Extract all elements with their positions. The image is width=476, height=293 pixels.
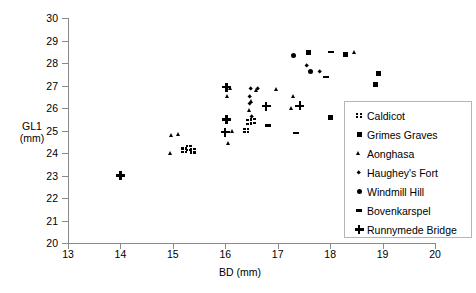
- legend-marker: [353, 148, 365, 160]
- legend-marker: [353, 224, 365, 236]
- y-axis-title-line1: GL1: [10, 120, 54, 132]
- x-tick-label: 20: [423, 248, 447, 260]
- y-tick-label: 21: [36, 216, 58, 226]
- legend-marker: [353, 186, 365, 198]
- marker-dash: [323, 76, 329, 78]
- legend-item-runnymede-bridge[interactable]: Runnymede Bridge: [345, 220, 471, 239]
- y-tick-label: 22: [36, 193, 58, 203]
- marker-triangle: [289, 106, 293, 110]
- marker-triangle: [225, 94, 229, 98]
- marker-triangle: [168, 151, 172, 155]
- y-tick-label: 24: [36, 148, 58, 158]
- y-tick-label: 23: [36, 171, 58, 181]
- legend-label: Runnymede Bridge: [367, 224, 457, 236]
- marker-plus: [116, 171, 125, 180]
- legend-label: Grimes Graves: [367, 129, 438, 141]
- marker-checker-square: [190, 148, 196, 154]
- legend-marker: [353, 129, 365, 141]
- marker-plus: [355, 225, 364, 234]
- marker-plus: [262, 102, 271, 111]
- marker-triangle: [226, 141, 230, 145]
- legend-item-haughey-s-fort[interactable]: Haughey's Fort: [345, 163, 471, 182]
- x-tick-label: 18: [318, 248, 342, 260]
- marker-dash: [328, 51, 334, 53]
- marker-square: [343, 52, 348, 57]
- legend-label: Windmill Hill: [367, 186, 424, 198]
- marker-plus: [222, 115, 231, 124]
- x-tick-label: 16: [213, 248, 237, 260]
- marker-circle: [357, 189, 362, 194]
- marker-square: [376, 71, 381, 76]
- y-tick-label: 27: [36, 81, 58, 91]
- legend-label: Caldicot: [367, 110, 405, 122]
- marker-triangle: [274, 87, 278, 91]
- legend-marker: [353, 167, 365, 179]
- legend-label: Haughey's Fort: [367, 167, 438, 179]
- legend-marker: [353, 110, 365, 122]
- marker-triangle: [247, 108, 251, 112]
- y-tick-label: 26: [36, 103, 58, 113]
- legend-marker: [353, 205, 365, 217]
- marker-plus: [221, 128, 230, 137]
- legend: CaldicotGrimes GravesAonghasaHaughey's F…: [344, 101, 472, 238]
- marker-dash: [356, 209, 362, 211]
- legend-item-grimes-graves[interactable]: Grimes Graves: [345, 125, 471, 144]
- marker-plus: [295, 101, 304, 110]
- y-axis-title-line2: (mm): [10, 132, 54, 144]
- marker-checker-square: [250, 118, 256, 124]
- legend-item-aonghasa[interactable]: Aonghasa: [345, 144, 471, 163]
- marker-square: [357, 132, 362, 137]
- marker-triangle: [356, 151, 360, 155]
- x-tick-label: 14: [108, 248, 132, 260]
- marker-triangle: [291, 94, 295, 98]
- marker-square: [306, 50, 311, 55]
- marker-triangle: [176, 132, 180, 136]
- y-tick-label: 29: [36, 36, 58, 46]
- y-axis-title: GL1 (mm): [10, 120, 54, 144]
- marker-square: [373, 82, 378, 87]
- legend-item-bovenkarspel[interactable]: Bovenkarspel: [345, 201, 471, 220]
- marker-triangle: [169, 133, 173, 137]
- marker-checker-square: [356, 113, 362, 119]
- marker-plus: [222, 83, 231, 92]
- legend-label: Bovenkarspel: [367, 205, 431, 217]
- x-axis-title: BD (mm): [180, 266, 300, 278]
- x-tick-label: 17: [266, 248, 290, 260]
- y-tick-label: 28: [36, 58, 58, 68]
- marker-checker-square: [243, 128, 249, 134]
- x-tick-label: 15: [161, 248, 185, 260]
- marker-square: [328, 115, 333, 120]
- y-tick-label: 30: [36, 13, 58, 23]
- marker-dash: [293, 132, 299, 134]
- marker-triangle: [352, 50, 356, 54]
- legend-item-caldicot[interactable]: Caldicot: [345, 106, 471, 125]
- legend-item-windmill-hill[interactable]: Windmill Hill: [345, 182, 471, 201]
- marker-circle: [308, 69, 313, 74]
- scatter-chart: 2021222324252627282930 1314151617181920 …: [0, 0, 476, 293]
- x-tick-label: 19: [371, 248, 395, 260]
- x-tick-label: 13: [56, 248, 80, 260]
- legend-label: Aonghasa: [367, 148, 414, 160]
- y-tick-label: 20: [36, 238, 58, 248]
- x-axis-line: [68, 243, 436, 244]
- marker-circle: [291, 53, 296, 58]
- marker-dash: [265, 124, 271, 126]
- marker-triangle: [230, 129, 234, 133]
- marker-diamond: [357, 170, 362, 175]
